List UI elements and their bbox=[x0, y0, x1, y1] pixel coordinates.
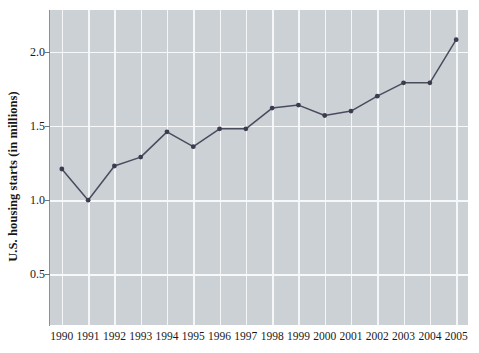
y-tick-label: 2.0 bbox=[1, 46, 45, 58]
gridline-horizontal bbox=[50, 126, 468, 127]
gridline-vertical bbox=[141, 10, 142, 325]
gridline-vertical bbox=[272, 10, 273, 325]
gridline-vertical bbox=[404, 10, 405, 325]
gridline-vertical bbox=[167, 10, 168, 325]
y-axis-tick-labels: 0.51.01.52.0 bbox=[0, 0, 45, 353]
y-tick-mark bbox=[45, 52, 50, 53]
x-tick-label: 2005 bbox=[436, 331, 476, 343]
y-tick-mark bbox=[45, 126, 50, 127]
y-tick-mark bbox=[45, 200, 50, 201]
y-tick-label: 1.5 bbox=[1, 120, 45, 132]
y-tick-mark bbox=[45, 274, 50, 275]
gridline-vertical bbox=[351, 10, 352, 325]
gridline-vertical bbox=[62, 10, 63, 325]
gridline-vertical bbox=[220, 10, 221, 325]
gridline-vertical bbox=[246, 10, 247, 325]
gridline-horizontal bbox=[50, 52, 468, 53]
plot-area bbox=[50, 10, 468, 325]
gridline-vertical bbox=[88, 10, 89, 325]
gridline-vertical bbox=[456, 10, 457, 325]
gridline-vertical bbox=[430, 10, 431, 325]
x-axis-tick-labels: 1990199119921993199419951996199719981999… bbox=[0, 331, 479, 351]
gridline-vertical bbox=[377, 10, 378, 325]
gridline-vertical bbox=[193, 10, 194, 325]
line-chart: U.S. housing starts (in millions) 0.51.0… bbox=[0, 0, 479, 353]
y-tick-label: 1.0 bbox=[1, 194, 45, 206]
gridline-vertical bbox=[325, 10, 326, 325]
gridline-vertical bbox=[298, 10, 299, 325]
gridline-horizontal bbox=[50, 274, 468, 275]
gridline-horizontal bbox=[50, 200, 468, 201]
y-tick-label: 0.5 bbox=[1, 268, 45, 280]
gridline-vertical bbox=[114, 10, 115, 325]
